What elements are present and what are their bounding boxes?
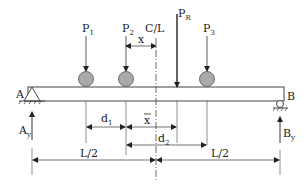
svg-text:P2: P2 (122, 22, 134, 37)
centerline-label: C/L (145, 22, 165, 35)
dim-d1-label: d1 (101, 112, 113, 127)
wheel-icon (79, 72, 94, 87)
load-p3: P3 (200, 22, 215, 87)
svg-text:P3: P3 (203, 22, 215, 37)
wheel-icon (119, 72, 134, 87)
dim-d2-label: d2 (158, 132, 170, 147)
dim-x-label: x (138, 33, 145, 46)
reaction-by-label: By (283, 127, 295, 142)
reaction-ay-label: Ay (18, 124, 31, 139)
beam-diagram: A B Ay By P1 P2 P3 PR C/L x (0, 0, 308, 193)
dim-half-left-label: L/2 (80, 147, 98, 160)
roller-support-icon (273, 101, 288, 112)
resultant-pr: PR (177, 7, 191, 87)
load-p2: P2 (119, 22, 134, 87)
dim-xbar-label: x (144, 114, 151, 127)
svg-text:PR: PR (178, 7, 191, 22)
wheel-icon (200, 72, 215, 87)
support-b-label: B (287, 90, 295, 103)
load-p1: P1 (79, 22, 94, 87)
support-a-label: A (15, 88, 25, 101)
dim-half-right-label: L/2 (211, 147, 229, 160)
svg-text:P1: P1 (82, 22, 94, 37)
